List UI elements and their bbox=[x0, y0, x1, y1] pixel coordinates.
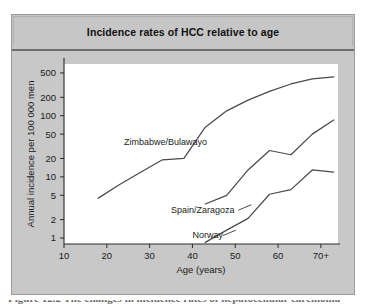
x-tick-label: 30 bbox=[144, 250, 155, 261]
chart-render-group: 50020010050201052110203040506070+Age (ye… bbox=[25, 58, 340, 275]
y-tick-label: 20 bbox=[45, 153, 56, 164]
y-tick-label: 50 bbox=[45, 129, 56, 140]
y-tick-label: 5 bbox=[51, 190, 56, 201]
series-line-spain-zaragoza bbox=[205, 120, 333, 204]
x-tick-label: 20 bbox=[102, 250, 113, 261]
y-tick-label: 2 bbox=[51, 214, 56, 225]
series-label-leader bbox=[238, 205, 251, 211]
x-tick-label: 40 bbox=[187, 250, 198, 261]
series-label-norway: Norway bbox=[192, 230, 223, 240]
y-tick-label: 200 bbox=[40, 92, 56, 103]
series-label-zimbabwe-bulawayo: Zimbabwe/Bulawayo bbox=[124, 137, 207, 147]
y-tick-label: 100 bbox=[40, 110, 56, 121]
x-tick-label: 70+ bbox=[313, 250, 330, 261]
x-tick-label: 10 bbox=[59, 250, 70, 261]
figure-caption-text: Figure 12.2 The changes in incidence rat… bbox=[8, 300, 358, 304]
chart-title: Incidence rates of HCC relative to age bbox=[87, 26, 279, 38]
x-axis-title: Age (years) bbox=[176, 264, 225, 275]
y-tick-label: 500 bbox=[40, 67, 56, 78]
chart-canvas: 50020010050201052110203040506070+Age (ye… bbox=[12, 15, 356, 296]
x-tick-label: 60 bbox=[273, 250, 284, 261]
figure-caption-cutoff: Figure 12.2 The changes in incidence rat… bbox=[8, 300, 358, 306]
series-label-spain-zaragoza: Spain/Zaragoza bbox=[171, 205, 235, 215]
y-axis-title: Annual incidence per 100 000 men bbox=[25, 81, 36, 228]
y-tick-label: 1 bbox=[51, 232, 56, 243]
figure-panel: Incidence rates of HCC relative to age 5… bbox=[11, 14, 355, 295]
figure-root: Incidence rates of HCC relative to age 5… bbox=[0, 0, 366, 306]
axis-lines bbox=[64, 58, 340, 244]
x-tick-label: 50 bbox=[230, 250, 241, 261]
y-tick-label: 10 bbox=[45, 171, 56, 182]
